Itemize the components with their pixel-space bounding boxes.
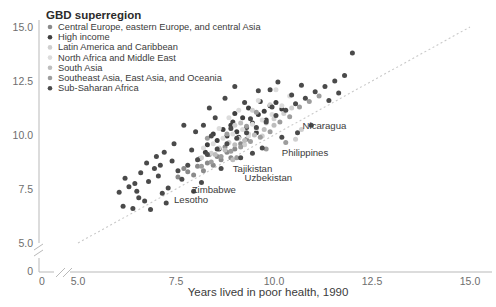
data-point (175, 168, 180, 173)
legend-item-label: South Asia (58, 63, 103, 73)
data-point (342, 73, 347, 78)
data-point (232, 123, 237, 128)
legend-title: GBD superregion (46, 9, 141, 21)
data-point (213, 115, 218, 120)
data-point (123, 176, 128, 181)
data-point (317, 94, 322, 99)
data-point (295, 130, 300, 135)
data-point (283, 108, 288, 113)
country-annotation: Philippines (282, 147, 329, 158)
x-axis-title: Years lived in poor health, 1990 (188, 286, 349, 298)
data-point (223, 96, 228, 101)
legend: GBD superregion Central Europe, eastern … (46, 9, 261, 93)
data-point (181, 166, 186, 171)
data-point (185, 163, 190, 168)
data-point (221, 136, 226, 141)
data-point (322, 84, 327, 89)
data-point (272, 123, 277, 128)
data-point (213, 152, 218, 157)
data-point (244, 124, 249, 129)
data-point (160, 191, 165, 196)
data-point (238, 155, 243, 160)
y-tick-label: 12.5 (13, 75, 34, 87)
data-point (332, 79, 337, 84)
data-point (121, 204, 126, 209)
data-point (230, 131, 235, 136)
legend-item-label: North Africa and Middle East (58, 53, 176, 63)
data-point (248, 116, 253, 121)
data-point (250, 151, 255, 156)
data-point (223, 148, 228, 153)
data-point (195, 157, 200, 162)
data-point (240, 115, 245, 120)
data-point (273, 100, 278, 105)
data-point (211, 141, 216, 146)
legend-item-label: Central Europe, eastern Europe, and cent… (58, 22, 261, 32)
data-point (130, 206, 135, 211)
legend-item-label: Latin America and Caribbean (58, 42, 178, 52)
y-tick-labels: 05.07.510.012.515.0 (13, 21, 34, 277)
data-point (205, 152, 210, 157)
x-tick-label: 7.5 (169, 275, 184, 287)
data-point (313, 89, 318, 94)
y-axis-break-icon (34, 244, 43, 256)
x-axis-break-icon (56, 268, 72, 277)
data-point (209, 134, 214, 139)
data-point (232, 111, 237, 116)
data-point (299, 83, 304, 88)
data-point (132, 181, 137, 186)
data-point (138, 170, 143, 175)
legend-item-label: Southeast Asia, East Asia, and Oceania (58, 73, 223, 83)
data-point (279, 135, 284, 140)
data-point (201, 123, 206, 128)
data-point (217, 126, 222, 131)
data-point (172, 141, 177, 146)
legend-marker-dot (48, 45, 53, 50)
y-tick-label: 10.0 (13, 129, 34, 141)
data-point (234, 136, 239, 141)
y-tick-label: 0 (27, 265, 33, 277)
data-point (144, 161, 149, 166)
data-point (148, 207, 153, 212)
legend-marker-dot (48, 25, 53, 30)
data-point (146, 179, 151, 184)
data-point (350, 50, 355, 55)
data-point (209, 160, 214, 165)
data-point (254, 125, 259, 130)
data-point (215, 138, 220, 143)
data-point (154, 154, 159, 159)
data-point (289, 93, 294, 98)
data-point (264, 120, 269, 125)
data-point (250, 122, 255, 127)
data-point (179, 177, 184, 182)
data-point (270, 104, 275, 109)
data-point (244, 130, 249, 135)
data-point (117, 190, 122, 195)
data-point (240, 127, 245, 132)
data-point (191, 172, 196, 177)
data-point (268, 129, 273, 134)
country-annotation: Nicaragua (303, 120, 347, 131)
data-point (260, 145, 265, 150)
x-tick-label: 12.5 (362, 275, 383, 287)
data-point (303, 96, 308, 101)
data-point (238, 121, 243, 126)
legend-marker-dot (48, 66, 53, 71)
y-tick-label: 5.0 (18, 237, 33, 249)
data-point (307, 99, 312, 104)
data-point (275, 80, 280, 85)
data-point (256, 98, 261, 103)
legend-item-label: High income (58, 32, 110, 42)
legend-marker-dot (48, 86, 53, 91)
data-point (201, 145, 206, 150)
data-point (189, 148, 194, 153)
data-point (268, 87, 273, 92)
data-point (228, 149, 233, 154)
data-point (228, 126, 233, 131)
data-point (287, 114, 292, 119)
data-point (219, 154, 224, 159)
data-point (164, 201, 169, 206)
data-point (336, 90, 341, 95)
data-point (279, 103, 284, 108)
data-point (293, 101, 298, 106)
